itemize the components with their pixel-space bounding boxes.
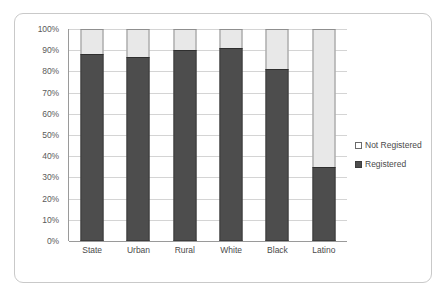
bar-slot xyxy=(301,29,347,241)
bar-segment-registered[interactable] xyxy=(81,54,104,241)
x-axis-tick-label: White xyxy=(208,245,254,255)
x-axis: StateUrbanRuralWhiteBlackLatino xyxy=(69,245,347,255)
bar-segment-not-registered[interactable] xyxy=(312,29,335,167)
x-axis-tick-label: State xyxy=(69,245,115,255)
bar-segment-not-registered[interactable] xyxy=(173,29,196,50)
y-axis-tick-label: 50% xyxy=(42,130,59,140)
bar-series-group xyxy=(69,29,347,241)
x-axis-baseline xyxy=(69,241,347,242)
bar-segment-registered[interactable] xyxy=(266,69,289,241)
bar-segment-not-registered[interactable] xyxy=(220,29,243,48)
legend-label: Registered xyxy=(365,159,406,169)
y-axis-tick-label: 30% xyxy=(42,172,59,182)
hollow-square-icon xyxy=(355,142,362,149)
y-axis-tick-label: 100% xyxy=(38,24,59,34)
bar-segment-not-registered[interactable] xyxy=(266,29,289,69)
y-axis-tick-label: 80% xyxy=(42,66,59,76)
bar-segment-not-registered[interactable] xyxy=(127,29,150,57)
legend-label: Not Registered xyxy=(365,140,422,150)
plot-area xyxy=(69,29,347,241)
y-axis-tick-label: 70% xyxy=(42,88,59,98)
stacked-bar[interactable] xyxy=(312,29,335,241)
bar-slot xyxy=(162,29,208,241)
stacked-bar[interactable] xyxy=(266,29,289,241)
bar-slot xyxy=(115,29,161,241)
stacked-bar[interactable] xyxy=(127,29,150,241)
chart-card: 0%10%20%30%40%50%60%70%80%90%100% StateU… xyxy=(14,13,432,283)
y-axis-tick-label: 20% xyxy=(42,194,59,204)
x-axis-tick-label: Latino xyxy=(301,245,347,255)
legend-entry[interactable]: Registered xyxy=(355,159,431,169)
bar-segment-registered[interactable] xyxy=(173,50,196,241)
bar-segment-not-registered[interactable] xyxy=(81,29,104,54)
y-axis-tick-label: 0% xyxy=(47,236,59,246)
bar-segment-registered[interactable] xyxy=(127,57,150,241)
y-axis-tick-label: 60% xyxy=(42,109,59,119)
y-axis-tick-label: 10% xyxy=(42,215,59,225)
bar-segment-registered[interactable] xyxy=(312,167,335,241)
bar-slot xyxy=(254,29,300,241)
y-axis: 0%10%20%30%40%50%60%70%80%90%100% xyxy=(15,29,65,241)
stacked-bar[interactable] xyxy=(81,29,104,241)
x-axis-tick-label: Urban xyxy=(115,245,161,255)
bar-slot xyxy=(208,29,254,241)
bar-slot xyxy=(69,29,115,241)
y-axis-tick-label: 40% xyxy=(42,151,59,161)
legend-entry[interactable]: Not Registered xyxy=(355,140,431,150)
stacked-bar[interactable] xyxy=(220,29,243,241)
x-axis-tick-label: Black xyxy=(254,245,300,255)
y-axis-tick-label: 90% xyxy=(42,45,59,55)
filled-square-icon xyxy=(355,161,362,168)
chart-legend: Not RegisteredRegistered xyxy=(355,140,431,178)
stacked-bar[interactable] xyxy=(173,29,196,241)
y-axis-line xyxy=(68,29,69,241)
x-axis-tick-label: Rural xyxy=(162,245,208,255)
bar-segment-registered[interactable] xyxy=(220,48,243,241)
